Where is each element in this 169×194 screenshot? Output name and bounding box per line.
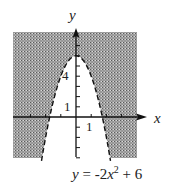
equation-exponent: 2 — [114, 164, 119, 175]
equation-lhs: y — [72, 166, 79, 182]
equation-coef: -2 — [95, 166, 108, 182]
equation-var: x — [107, 166, 114, 182]
y-axis-label: y — [67, 7, 76, 23]
inequality-graph: y x 4 1 1 — [0, 0, 169, 194]
equation-label: y = -2x2 + 6 — [72, 166, 142, 183]
equation-relation: = — [82, 166, 90, 182]
equation-sign: + — [123, 166, 131, 182]
equation-const: 6 — [135, 166, 143, 182]
y-tick-label-1: 1 — [64, 99, 71, 114]
x-tick-label-1: 1 — [86, 119, 93, 134]
shaded-region — [13, 32, 137, 161]
y-tick-label-4: 4 — [62, 68, 69, 83]
x-axis-label: x — [153, 110, 161, 126]
